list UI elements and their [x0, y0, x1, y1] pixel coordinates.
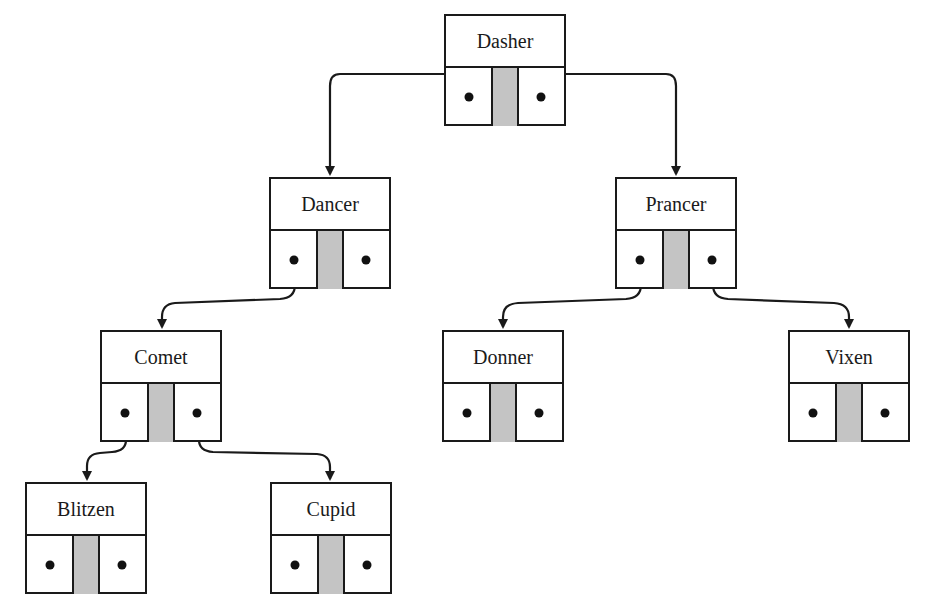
middle-cell [316, 231, 343, 289]
pointer-dot-icon [362, 256, 371, 265]
left-pointer-cell [27, 536, 72, 594]
node-label: Dancer [271, 179, 389, 231]
pointer-dot-icon [120, 409, 129, 418]
middle-cell [662, 231, 689, 289]
right-pointer-cell [690, 231, 735, 289]
tree-node-dasher: Dasher [444, 14, 566, 126]
left-pointer-cell [790, 384, 835, 442]
left-pointer-cell [444, 384, 489, 442]
node-label: Cupid [272, 484, 390, 536]
left-pointer-cell [617, 231, 662, 289]
pointer-dot-icon [45, 561, 54, 570]
tree-node-cupid: Cupid [270, 482, 392, 594]
right-pointer-cell [519, 68, 564, 126]
node-label: Comet [102, 332, 220, 384]
node-pointer-row [102, 384, 220, 442]
pointer-dot-icon [462, 409, 471, 418]
pointer-dot-icon [808, 409, 817, 418]
node-pointer-row [617, 231, 735, 289]
tree-node-dancer: Dancer [269, 177, 391, 289]
right-pointer-cell [100, 536, 145, 594]
node-label: Prancer [617, 179, 735, 231]
tree-node-comet: Comet [100, 330, 222, 442]
pointer-dot-icon [290, 561, 299, 570]
pointer-dot-icon [464, 93, 473, 102]
pointer-dot-icon [193, 409, 202, 418]
node-pointer-row [27, 536, 145, 594]
node-pointer-row [790, 384, 908, 442]
left-pointer-cell [272, 536, 317, 594]
node-label: Dasher [446, 16, 564, 68]
pointer-dot-icon [708, 256, 717, 265]
right-pointer-cell [344, 231, 389, 289]
left-pointer-cell [446, 68, 491, 126]
right-pointer-cell [175, 384, 220, 442]
node-pointer-row [272, 536, 390, 594]
middle-cell [491, 68, 518, 126]
right-pointer-cell [863, 384, 908, 442]
right-pointer-cell [517, 384, 562, 442]
pointer-dot-icon [881, 409, 890, 418]
middle-cell [317, 536, 344, 594]
left-pointer-cell [271, 231, 316, 289]
pointer-dot-icon [363, 561, 372, 570]
tree-node-blitzen: Blitzen [25, 482, 147, 594]
pointer-dot-icon [289, 256, 298, 265]
pointer-dot-icon [537, 93, 546, 102]
tree-node-vixen: Vixen [788, 330, 910, 442]
node-pointer-row [271, 231, 389, 289]
left-pointer-cell [102, 384, 147, 442]
node-pointer-row [444, 384, 562, 442]
pointer-dot-icon [535, 409, 544, 418]
right-pointer-cell [345, 536, 390, 594]
node-label: Vixen [790, 332, 908, 384]
node-label: Donner [444, 332, 562, 384]
middle-cell [147, 384, 174, 442]
middle-cell [835, 384, 862, 442]
pointer-dot-icon [118, 561, 127, 570]
node-pointer-row [446, 68, 564, 126]
tree-node-prancer: Prancer [615, 177, 737, 289]
tree-node-donner: Donner [442, 330, 564, 442]
middle-cell [72, 536, 99, 594]
middle-cell [489, 384, 516, 442]
pointer-dot-icon [635, 256, 644, 265]
node-label: Blitzen [27, 484, 145, 536]
